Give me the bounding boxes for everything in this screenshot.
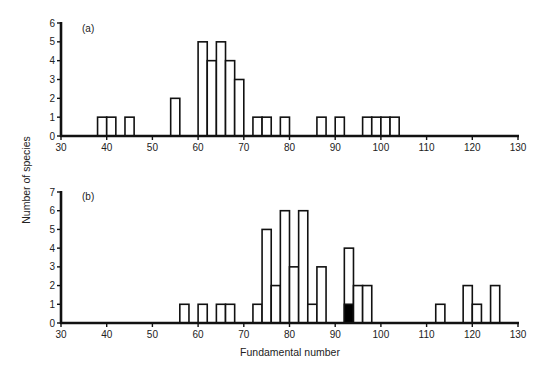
x-tick-label: 40 <box>101 142 113 153</box>
y-tick-label: 4 <box>49 243 55 254</box>
bars <box>180 211 500 323</box>
x-tick-label: 90 <box>330 329 342 340</box>
x-tick-label: 60 <box>193 329 205 340</box>
histogram-bar <box>308 304 317 323</box>
x-tick-label: 130 <box>510 142 527 153</box>
bars <box>98 42 400 136</box>
histogram-bar <box>226 304 235 323</box>
histogram-bar <box>253 117 262 136</box>
x-tick-label: 30 <box>55 329 67 340</box>
histogram-bar <box>235 80 244 137</box>
histogram-bar <box>253 304 262 323</box>
x-axis-title: Fundamental number <box>240 346 340 358</box>
histogram-bar <box>463 286 472 323</box>
y-axis-title: Number of species <box>20 136 32 224</box>
y-axis: 0123456 <box>49 18 61 142</box>
histogram-bar-filled-portion <box>344 304 353 323</box>
histogram-panel-a: 012345630405060708090100110120130(a) <box>49 18 526 154</box>
y-tick-label: 5 <box>49 224 55 235</box>
x-tick-label: 70 <box>238 142 250 153</box>
histogram-panel-b: 0123456730405060708090100110120130(b) <box>49 187 526 341</box>
x-tick-label: 80 <box>284 142 296 153</box>
histogram-bar <box>207 61 216 136</box>
y-tick-label: 4 <box>49 55 55 66</box>
y-tick-label: 6 <box>49 18 55 29</box>
x-tick-label: 100 <box>373 329 390 340</box>
x-tick-label: 120 <box>464 142 481 153</box>
x-axis: 30405060708090100110120130 <box>55 136 526 153</box>
histogram-bar <box>262 117 271 136</box>
panel-label: (a) <box>82 23 94 34</box>
histogram-bar <box>290 267 299 323</box>
y-tick-label: 3 <box>49 261 55 272</box>
y-tick-label: 6 <box>49 205 55 216</box>
x-tick-label: 90 <box>330 142 342 153</box>
histogram-bar <box>363 117 372 136</box>
histogram-bar <box>171 98 180 136</box>
y-tick-label: 3 <box>49 74 55 85</box>
histogram-bar <box>280 117 289 136</box>
histogram-bar <box>317 267 326 323</box>
y-tick-label: 5 <box>49 36 55 47</box>
x-tick-label: 30 <box>55 142 67 153</box>
x-axis: 30405060708090100110120130 <box>55 323 526 340</box>
histogram-bar <box>125 117 134 136</box>
y-tick-label: 0 <box>49 318 55 329</box>
y-tick-label: 2 <box>49 93 55 104</box>
histogram-bar <box>198 304 207 323</box>
histogram-bar <box>363 286 372 323</box>
histogram-bar <box>216 304 225 323</box>
x-tick-label: 60 <box>193 142 205 153</box>
x-tick-label: 80 <box>284 329 296 340</box>
histogram-bar <box>107 117 116 136</box>
x-tick-label: 50 <box>147 329 159 340</box>
histogram-bar <box>216 42 225 136</box>
y-axis: 01234567 <box>49 187 61 329</box>
panel-label: (b) <box>82 191 94 202</box>
y-tick-label: 1 <box>49 112 55 123</box>
histogram-bar <box>491 286 500 323</box>
histogram-bar <box>226 61 235 136</box>
histogram-bar <box>353 286 362 323</box>
x-tick-label: 50 <box>147 142 159 153</box>
x-tick-label: 120 <box>464 329 481 340</box>
histogram-bar <box>372 117 381 136</box>
histogram-bar <box>335 117 344 136</box>
y-tick-label: 1 <box>49 299 55 310</box>
histogram-bar <box>317 117 326 136</box>
x-tick-label: 110 <box>419 329 435 340</box>
histogram-bar <box>436 304 445 323</box>
histogram-bar <box>198 42 207 136</box>
x-tick-label: 40 <box>101 329 113 340</box>
x-tick-label: 130 <box>510 329 527 340</box>
histogram-bar <box>381 117 390 136</box>
histogram-bar <box>271 286 280 323</box>
histogram-bar <box>180 304 189 323</box>
y-tick-label: 2 <box>49 280 55 291</box>
x-tick-label: 110 <box>419 142 435 153</box>
x-tick-label: 70 <box>238 329 250 340</box>
y-tick-label: 0 <box>49 131 55 142</box>
histogram-bar <box>390 117 399 136</box>
histogram-bar <box>98 117 107 136</box>
x-tick-label: 100 <box>373 142 390 153</box>
histogram-bar <box>262 229 271 323</box>
histogram-figure: 012345630405060708090100110120130(a) 012… <box>0 0 551 377</box>
histogram-bar <box>280 211 289 323</box>
y-tick-label: 7 <box>49 187 55 198</box>
histogram-bar <box>299 211 308 323</box>
histogram-bar <box>472 304 481 323</box>
